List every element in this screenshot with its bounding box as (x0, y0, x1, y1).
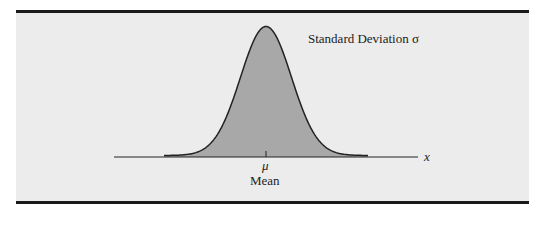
mean-label: Mean (250, 173, 280, 189)
mean-symbol: μ (262, 158, 269, 174)
x-axis-label: x (424, 149, 430, 165)
standard-deviation-label: Standard Deviation σ (308, 31, 419, 47)
